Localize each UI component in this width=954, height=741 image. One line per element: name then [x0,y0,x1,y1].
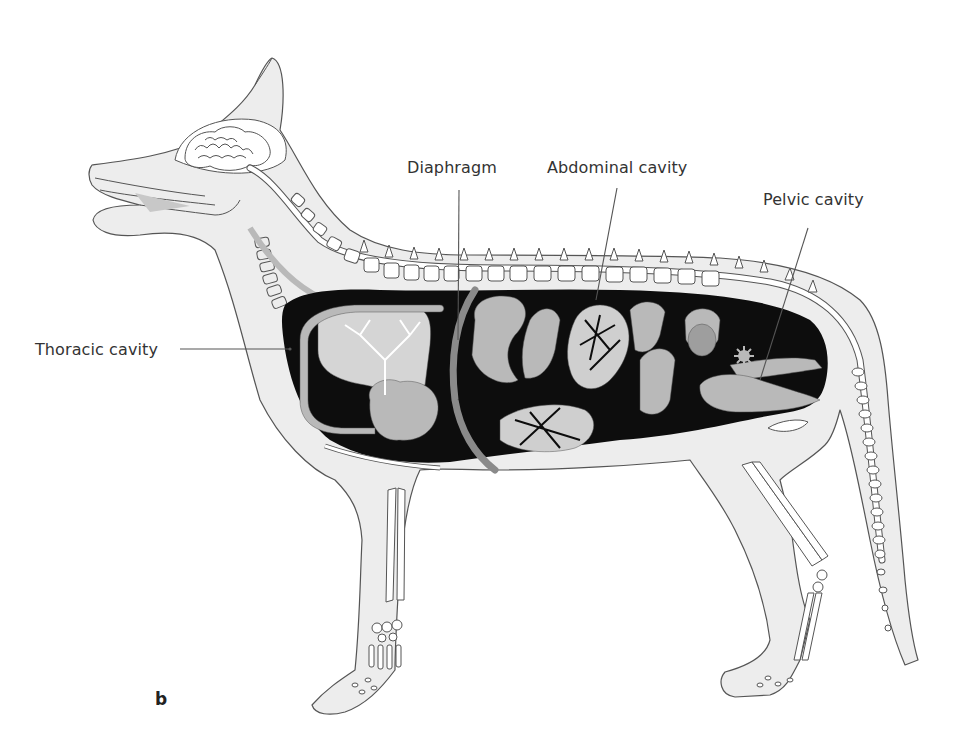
label-thoracic-cavity: Thoracic cavity [35,340,158,359]
label-abdominal-cavity: Abdominal cavity [547,158,687,177]
figure-canvas: Diaphragm Abdominal cavity Pelvic cavity… [0,0,954,741]
panel-letter: b [155,689,167,709]
pelvic-spiky-structure [734,346,754,366]
label-pelvic-cavity: Pelvic cavity [763,190,864,209]
label-diaphragm: Diaphragm [407,158,497,177]
dog-anatomy-illustration [0,0,954,741]
